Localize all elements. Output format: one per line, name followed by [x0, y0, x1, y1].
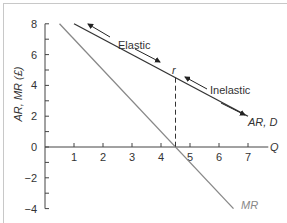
x-tick-label: 6	[216, 151, 222, 163]
y-tick-label: 8	[31, 18, 37, 30]
y-tick-label: 4	[31, 79, 37, 91]
elastic-label: Elastic	[118, 39, 151, 51]
x-tick-label: 2	[100, 151, 106, 163]
ar-demand-line	[74, 24, 248, 116]
y-axis-label: AR, MR (£)	[12, 66, 24, 122]
y-tick-label: −2	[24, 172, 37, 184]
mr-line	[60, 24, 234, 209]
x-axis-label: Q	[270, 141, 279, 153]
mr-label: MR	[241, 199, 258, 211]
inelastic-arrow-down	[221, 103, 245, 115]
elastic-arrow-up	[88, 24, 110, 37]
y-tick-label: 2	[31, 110, 37, 122]
y-tick-label: 0	[31, 141, 37, 153]
ar-d-label: AR, D	[247, 116, 277, 128]
inelastic-arrow-up	[185, 77, 207, 89]
x-tick-label: 5	[187, 151, 193, 163]
x-tick-label: 1	[71, 151, 77, 163]
chart: −4−2024681234567 AR, MR (£) Q Elastic In…	[0, 0, 287, 223]
x-tick-label: 4	[158, 151, 164, 163]
point-r-label: r	[172, 64, 177, 76]
y-tick-label: 6	[31, 49, 37, 61]
y-tick-label: −4	[24, 203, 37, 215]
inelastic-label: Inelastic	[210, 84, 251, 96]
x-tick-label: 3	[129, 151, 135, 163]
x-tick-label: 7	[245, 151, 251, 163]
